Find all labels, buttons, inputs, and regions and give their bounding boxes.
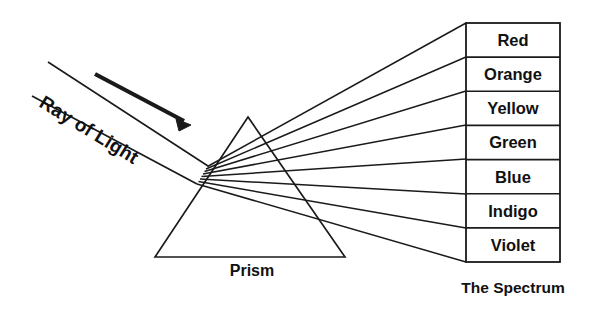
diagram-canvas: Ray of Light Prism Red (0, 0, 605, 315)
spectrum-band-violet: Violet (491, 236, 536, 254)
spectrum-band-green: Green (489, 133, 537, 151)
spectrum-band-indigo: Indigo (488, 202, 537, 220)
dispersed-ray-4 (203, 125, 466, 174)
spectrum-band-labels: Red Orange Yellow Green Blue Indigo Viol… (484, 31, 542, 254)
prism-triangle (155, 117, 345, 257)
dispersed-ray-7 (199, 182, 467, 229)
dispersed-rays (197, 23, 466, 262)
dispersed-ray-1 (208, 23, 467, 167)
prism-dispersion-diagram: Ray of Light Prism Red (0, 0, 605, 315)
arrow-shaft (95, 74, 184, 121)
dispersed-ray-2 (206, 57, 466, 169)
spectrum-caption: The Spectrum (461, 279, 564, 296)
spectrum-band-orange: Orange (484, 65, 542, 83)
spectrum-band-red: Red (497, 31, 528, 49)
ray-of-light-label: Ray of Light (36, 92, 143, 169)
dispersed-ray-5 (202, 159, 467, 177)
dispersed-ray-8 (197, 184, 466, 262)
spectrum-band-blue: Blue (495, 168, 531, 186)
dispersed-ray-6 (200, 179, 466, 194)
prism-label: Prism (230, 262, 274, 279)
spectrum-band-yellow: Yellow (487, 99, 539, 117)
dispersed-ray-3 (205, 91, 467, 172)
